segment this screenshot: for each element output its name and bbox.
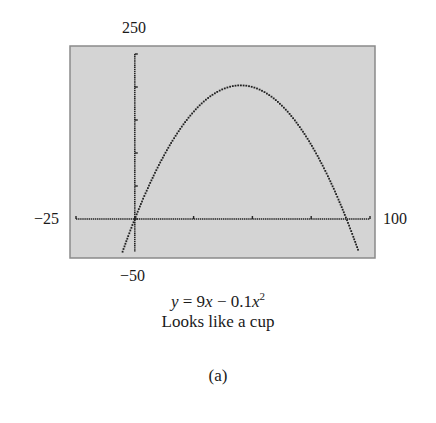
- x-max-label: 100: [383, 211, 407, 227]
- equation-caption: y = 9x − 0.1x2: [0, 290, 436, 312]
- subtitle-caption: Looks like a cup: [0, 312, 436, 332]
- x-min-label: −25: [34, 211, 59, 227]
- plot-area: [70, 46, 375, 258]
- y-min-label: −50: [120, 268, 145, 284]
- graph-window: [0, 0, 436, 423]
- panel-label: (a): [0, 366, 436, 386]
- y-max-label: 250: [122, 20, 146, 36]
